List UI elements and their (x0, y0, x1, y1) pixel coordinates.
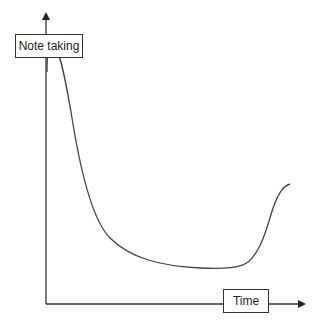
note-taking-curve (47, 44, 290, 268)
y-axis-label: Note taking (15, 34, 83, 58)
x-axis-label: Time (223, 289, 269, 313)
